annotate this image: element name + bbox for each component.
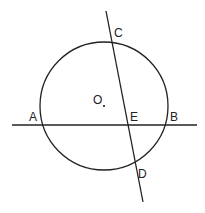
label-d: D [138, 167, 147, 181]
geometry-diagram: C O A E B D [0, 0, 205, 213]
diagram-svg: C O A E B D [0, 0, 205, 213]
label-e: E [130, 110, 138, 124]
label-b: B [170, 110, 178, 124]
label-o: O [93, 93, 102, 107]
label-a: A [29, 110, 37, 124]
label-c: C [114, 26, 123, 40]
center-dot [103, 105, 105, 107]
